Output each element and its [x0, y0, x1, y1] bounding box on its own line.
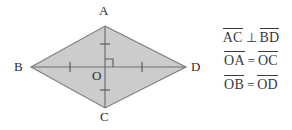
segment-oc-label: OC — [258, 51, 278, 68]
center-point-label-o: O — [92, 69, 101, 82]
equation-ob-equals-od: OB = OD — [224, 75, 278, 92]
equations-panel: AC ⊥ BD OA = OC OB = OD — [212, 28, 290, 92]
perpendicular-symbol-icon: ⊥ — [243, 31, 260, 45]
vertex-label-a: A — [99, 4, 108, 17]
segment-oa-label: OA — [224, 51, 245, 68]
segment-od-label: OD — [257, 75, 278, 92]
vertex-label-d: D — [191, 60, 200, 73]
geometry-figure: A B C D O AC ⊥ BD OA = OC OB = OD — [0, 0, 292, 130]
segment-ob-label: OB — [224, 75, 244, 92]
equals-symbol-icon: = — [245, 54, 258, 68]
vertex-label-b: B — [14, 60, 23, 73]
vertex-label-c: C — [100, 110, 109, 123]
equation-oa-equals-oc: OA = OC — [224, 51, 278, 68]
equals-symbol-icon: = — [244, 78, 257, 92]
segment-bd-label: BD — [260, 28, 280, 45]
equation-perpendicular-diagonals: AC ⊥ BD — [223, 28, 280, 45]
segment-ac-label: AC — [223, 28, 243, 45]
